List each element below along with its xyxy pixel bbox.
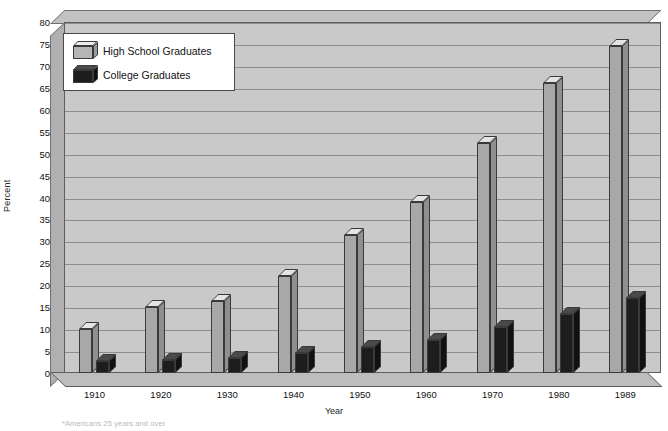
legend-swatch-college-graduates — [73, 68, 93, 83]
bar-college-graduates-1910 — [96, 361, 109, 373]
y-tick-label: 40 — [39, 192, 50, 203]
chart-footnote: *Americans 25 years and over — [62, 419, 165, 428]
y-tick-label: 75 — [39, 38, 50, 49]
bar-college-graduates-1940 — [295, 353, 308, 373]
x-tick-label: 1940 — [283, 389, 304, 400]
legend-item-college-graduates: College Graduates — [73, 65, 191, 85]
bar-high-school-graduates-1940 — [278, 276, 291, 373]
x-axis-tick-labels: 191019201930194019501960197019801989 — [0, 389, 668, 405]
y-axis-title: Percent — [2, 156, 16, 236]
bar-high-school-graduates-1970 — [477, 143, 490, 373]
bar-college-graduates-1980 — [560, 314, 573, 373]
y-tick-label: 35 — [39, 214, 50, 225]
bar-high-school-graduates-1910 — [79, 329, 92, 373]
x-tick-label: 1950 — [349, 389, 370, 400]
x-tick-label: 1989 — [615, 389, 636, 400]
x-tick-label: 1910 — [84, 389, 105, 400]
x-tick-label: 1970 — [482, 389, 503, 400]
bar-high-school-graduates-1950 — [344, 235, 357, 373]
legend-item-high-school-graduates: High School Graduates — [73, 41, 212, 61]
y-tick-label: 50 — [39, 148, 50, 159]
y-tick-label: 65 — [39, 82, 50, 93]
y-tick-label: 60 — [39, 104, 50, 115]
y-tick-label: 15 — [39, 302, 50, 313]
y-tick-label: 55 — [39, 126, 50, 137]
bar-high-school-graduates-1980 — [543, 83, 556, 373]
bar-college-graduates-1950 — [361, 347, 374, 373]
y-tick-label: 30 — [39, 236, 50, 247]
bar-high-school-graduates-1930 — [211, 301, 224, 373]
x-tick-label: 1930 — [217, 389, 238, 400]
y-axis-tick-labels: 05101520253035404550556065707580 — [18, 0, 50, 431]
legend-label-college-graduates: College Graduates — [103, 69, 191, 81]
legend-swatch-high-school-graduates — [73, 44, 93, 59]
bar-high-school-graduates-1989 — [609, 46, 622, 373]
y-tick-label: 70 — [39, 60, 50, 71]
chart-legend: High School Graduates College Graduates — [63, 33, 235, 91]
y-tick-label: 25 — [39, 258, 50, 269]
y-tick-label: 45 — [39, 170, 50, 181]
bar-college-graduates-1930 — [228, 358, 241, 373]
chart-figure: Percent 05101520253035404550556065707580… — [0, 0, 668, 431]
x-axis-title: Year — [0, 406, 668, 416]
bar-college-graduates-1960 — [427, 340, 440, 373]
y-tick-label: 20 — [39, 280, 50, 291]
y-tick-label: 80 — [39, 17, 50, 28]
bar-high-school-graduates-1960 — [410, 202, 423, 373]
bar-high-school-graduates-1920 — [145, 307, 158, 373]
x-tick-label: 1980 — [548, 389, 569, 400]
bar-college-graduates-1920 — [162, 360, 175, 373]
bar-college-graduates-1970 — [494, 327, 507, 373]
x-tick-label: 1960 — [416, 389, 437, 400]
x-tick-label: 1920 — [150, 389, 171, 400]
y-tick-label: 10 — [39, 324, 50, 335]
legend-label-high-school-graduates: High School Graduates — [103, 45, 212, 57]
bar-college-graduates-1989 — [626, 298, 639, 373]
